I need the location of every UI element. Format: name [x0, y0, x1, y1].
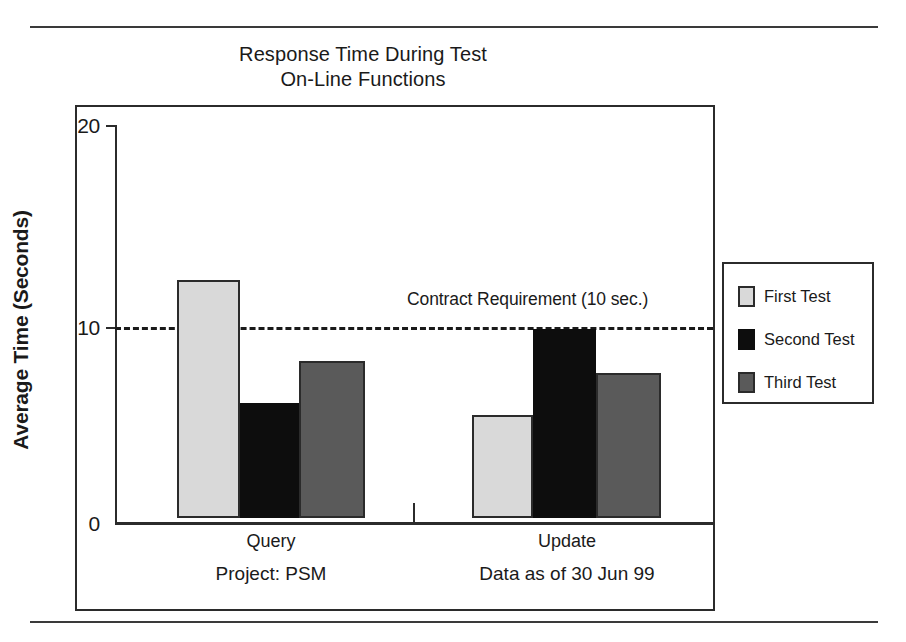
legend: First Test Second Test Third Test: [722, 262, 874, 404]
bar-update-first-test[interactable]: [472, 415, 533, 518]
legend-label-second-test: Second Test: [764, 330, 855, 349]
x-category-label-query: Query: [246, 531, 295, 552]
chart-title-line-1: Response Time During Test: [0, 42, 726, 67]
x-category-label-update: Update: [538, 531, 596, 552]
y-tick-label-10: 10: [77, 316, 100, 340]
legend-swatch-third-test-icon: [738, 372, 755, 393]
bar-query-second-test[interactable]: [240, 403, 299, 518]
legend-swatch-second-test-icon: [738, 329, 755, 350]
y-axis-line: [115, 125, 117, 525]
legend-item-second-test[interactable]: Second Test: [738, 320, 872, 358]
legend-swatch-first-test-icon: [738, 286, 755, 307]
y-tick-label-20: 20: [77, 114, 100, 138]
y-axis-label: Average Time (Seconds): [9, 210, 33, 450]
legend-label-third-test: Third Test: [764, 373, 836, 392]
contract-requirement-label: Contract Requirement (10 sec.): [407, 289, 648, 310]
y-tick-label-0: 0: [89, 512, 100, 536]
chart-title-line-2: On-Line Functions: [0, 67, 726, 92]
chart-title: Response Time During Test On-Line Functi…: [0, 42, 906, 92]
bar-query-third-test[interactable]: [299, 361, 365, 518]
y-tick-mark-20: [106, 125, 117, 127]
top-divider-rule: [30, 26, 878, 28]
group-separator-tick: [413, 503, 415, 525]
footer-project: Project: PSM: [216, 563, 327, 585]
bar-update-third-test[interactable]: [596, 373, 661, 518]
plot-area: 20 10 0 Contract Requirement (10 sec.) Q…: [75, 105, 715, 611]
bottom-divider-rule: [30, 621, 878, 623]
legend-label-first-test: First Test: [764, 287, 831, 306]
bar-query-first-test[interactable]: [177, 280, 240, 518]
bar-update-second-test[interactable]: [533, 329, 596, 518]
legend-item-first-test[interactable]: First Test: [738, 277, 872, 315]
legend-item-third-test[interactable]: Third Test: [738, 363, 872, 401]
footer-data-date: Data as of 30 Jun 99: [479, 563, 654, 585]
